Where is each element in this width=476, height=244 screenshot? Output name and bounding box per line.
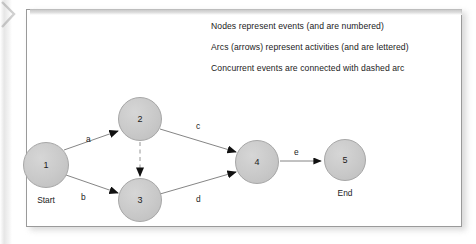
- arc-b-line: [66, 175, 118, 193]
- arc-label-a: a: [86, 134, 91, 144]
- arc-label-b: b: [81, 192, 86, 202]
- node-5-label: 5: [342, 155, 347, 165]
- node-2-label: 2: [137, 114, 142, 124]
- node-1-label: 1: [43, 160, 48, 170]
- network-arcs: [0, 0, 476, 244]
- arc-label-c: c: [196, 121, 200, 131]
- arc-label-e: e: [294, 147, 299, 157]
- node-2[interactable]: 2: [118, 97, 162, 141]
- arc-label-d: d: [196, 194, 201, 204]
- node-5[interactable]: 5: [324, 139, 366, 181]
- node-4[interactable]: 4: [235, 140, 279, 184]
- arc-c-line: [160, 129, 236, 152]
- node-3[interactable]: 3: [118, 178, 162, 222]
- arc-a-line: [64, 131, 118, 150]
- node-1-caption: Start: [22, 195, 70, 205]
- node-3-label: 3: [137, 195, 142, 205]
- scanned-page: Nodes represent events (and are numbered…: [0, 0, 476, 244]
- node-4-label: 4: [254, 157, 259, 167]
- node-1[interactable]: 1: [23, 142, 69, 188]
- node-5-caption: End: [321, 188, 369, 198]
- arc-d-line: [160, 172, 236, 194]
